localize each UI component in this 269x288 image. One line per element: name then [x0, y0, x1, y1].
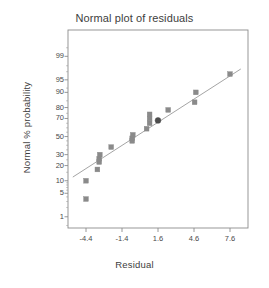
data-point	[130, 132, 135, 137]
data-points	[84, 72, 233, 202]
data-point	[166, 108, 171, 113]
y-axis-ticks	[65, 48, 69, 226]
plot-frame	[68, 30, 248, 228]
data-point	[147, 112, 152, 117]
data-point	[97, 152, 102, 157]
data-point-highlight	[155, 118, 161, 124]
data-point	[228, 72, 233, 77]
data-point	[84, 197, 89, 202]
data-point	[95, 167, 100, 172]
data-point	[193, 90, 198, 95]
data-point	[84, 178, 89, 183]
data-point	[147, 121, 152, 126]
chart-figure: Normal plot of residuals Normal % probab…	[0, 0, 269, 288]
x-axis-ticks	[86, 228, 230, 232]
data-point	[144, 126, 149, 131]
data-point	[109, 145, 114, 150]
plot-area	[0, 0, 269, 288]
data-point	[192, 100, 197, 105]
